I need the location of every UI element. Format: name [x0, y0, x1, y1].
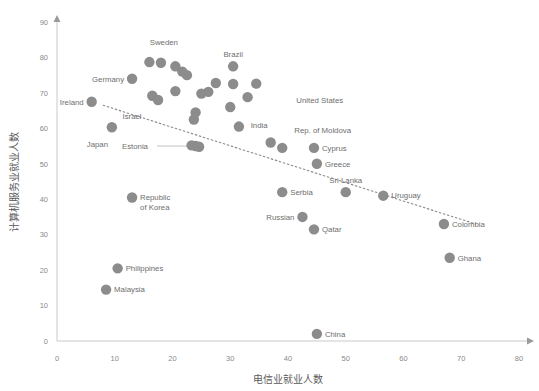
- point-label: Ghana: [458, 254, 482, 263]
- point-label: Brazil: [223, 50, 243, 59]
- point-label: Rep. of Moldova: [294, 126, 351, 135]
- point-label: Germany: [92, 75, 124, 84]
- y-tick-label: 0: [44, 337, 48, 346]
- data-point: [277, 187, 287, 197]
- data-point: [312, 159, 322, 169]
- data-point: [277, 143, 287, 153]
- point-label: Greece: [325, 160, 351, 169]
- chart-canvas: 010203040506070809001020304050607080 Swe…: [0, 0, 539, 391]
- axes: 010203040506070809001020304050607080: [40, 15, 534, 363]
- y-tick-label: 40: [40, 195, 48, 204]
- point-label: United States: [296, 96, 343, 105]
- data-point: [439, 219, 449, 229]
- point-label: Uruguay: [391, 191, 421, 200]
- x-tick-label: 20: [168, 354, 176, 363]
- data-point: [242, 92, 252, 102]
- data-point: [211, 78, 221, 88]
- data-point: [127, 192, 137, 202]
- y-tick-label: 50: [40, 160, 48, 169]
- data-point: [312, 329, 322, 339]
- point-label: Cyprus: [322, 144, 347, 153]
- x-tick-label: 70: [457, 354, 465, 363]
- data-point: [144, 57, 154, 67]
- data-point: [309, 143, 319, 153]
- point-label: Colombia: [452, 220, 486, 229]
- y-tick-label: 80: [40, 53, 48, 62]
- y-tick-label: 30: [40, 230, 48, 239]
- data-point: [189, 114, 199, 124]
- data-point: [265, 137, 275, 147]
- point-label: Sri Lanka: [329, 176, 363, 185]
- data-point: [234, 121, 244, 131]
- y-axis-title: 计算机服务业就业人数: [8, 132, 20, 232]
- data-point: [378, 190, 388, 200]
- x-axis-arrow: [527, 338, 534, 345]
- data-point: [127, 74, 137, 84]
- data-point: [203, 87, 213, 97]
- data-point: [170, 86, 180, 96]
- point-label: China: [325, 330, 346, 339]
- x-tick-label: 80: [515, 354, 523, 363]
- x-tick-label: 0: [55, 354, 59, 363]
- data-point: [153, 95, 163, 105]
- data-point: [228, 61, 238, 71]
- y-tick-label: 90: [40, 18, 48, 27]
- x-tick-label: 60: [399, 354, 407, 363]
- data-point: [251, 78, 261, 88]
- y-tick-label: 20: [40, 266, 48, 275]
- point-label: Russian: [266, 213, 294, 222]
- y-tick-label: 60: [40, 124, 48, 133]
- data-point: [309, 224, 319, 234]
- data-point: [156, 58, 166, 68]
- point-label: Qatar: [322, 225, 342, 234]
- point-label: India: [251, 121, 269, 130]
- axis-titles: 电信业就业人数计算机服务业就业人数: [8, 132, 323, 386]
- x-axis-title: 电信业就业人数: [253, 373, 323, 385]
- x-tick-label: 40: [284, 354, 292, 363]
- point-label: Ireland: [60, 98, 84, 107]
- y-tick-label: 70: [40, 89, 48, 98]
- point-label: Republicof Korea: [140, 193, 170, 212]
- point-label: Malaysia: [114, 285, 145, 294]
- data-point: [228, 79, 238, 89]
- data-point: [101, 284, 111, 294]
- y-tick-label: 10: [40, 301, 48, 310]
- y-axis-arrow: [54, 15, 61, 22]
- point-label: Israel: [123, 112, 142, 121]
- point-label: Serbia: [290, 188, 313, 197]
- scatter-chart: 010203040506070809001020304050607080 Swe…: [0, 0, 539, 391]
- point-label: Sweden: [150, 38, 178, 47]
- x-tick-label: 10: [111, 354, 119, 363]
- point-labels: SwedenGermanyIrelandIsraelJapanBrazilUni…: [60, 38, 486, 339]
- point-label: Philippines: [126, 264, 164, 273]
- data-point: [341, 187, 351, 197]
- point-label: Estonia: [122, 142, 149, 151]
- data-point: [112, 263, 122, 273]
- x-tick-label: 30: [226, 354, 234, 363]
- data-point: [86, 97, 96, 107]
- x-tick-label: 50: [342, 354, 350, 363]
- point-label: Japan: [87, 140, 108, 149]
- data-point: [225, 102, 235, 112]
- data-point: [445, 253, 455, 263]
- data-point: [182, 70, 192, 80]
- data-point: [194, 142, 204, 152]
- data-point: [297, 212, 307, 222]
- data-point: [107, 122, 117, 132]
